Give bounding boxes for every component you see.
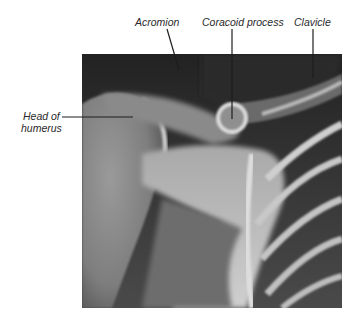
leader-lines bbox=[0, 0, 355, 318]
acromion-leader-line bbox=[167, 29, 179, 70]
humerus-label-line2: humerus bbox=[21, 123, 62, 134]
humerus-label-line1: Head of bbox=[23, 111, 60, 122]
acromion-label: Acromion bbox=[135, 17, 179, 28]
coracoid-process-label: Coracoid process bbox=[202, 17, 284, 28]
clavicle-label: Clavicle bbox=[294, 17, 331, 28]
